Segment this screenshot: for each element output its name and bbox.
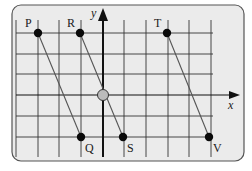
point-label-P: P [25,16,32,30]
point-T [163,29,171,37]
point-label-V: V [213,141,222,155]
point-label-T: T [154,16,162,30]
point-Q [77,133,85,141]
point-V [205,133,213,141]
origin-marker [98,90,109,101]
y-axis-label: y [90,6,97,20]
point-label-R: R [67,16,75,30]
coordinate-grid-figure: xy PRTQSV [0,0,252,171]
point-P [34,29,42,37]
origin-circle-icon [98,90,109,101]
point-label-Q: Q [85,141,94,155]
point-S [119,133,127,141]
point-label-S: S [127,141,134,155]
point-R [76,29,84,37]
x-axis-label: x [227,98,234,112]
